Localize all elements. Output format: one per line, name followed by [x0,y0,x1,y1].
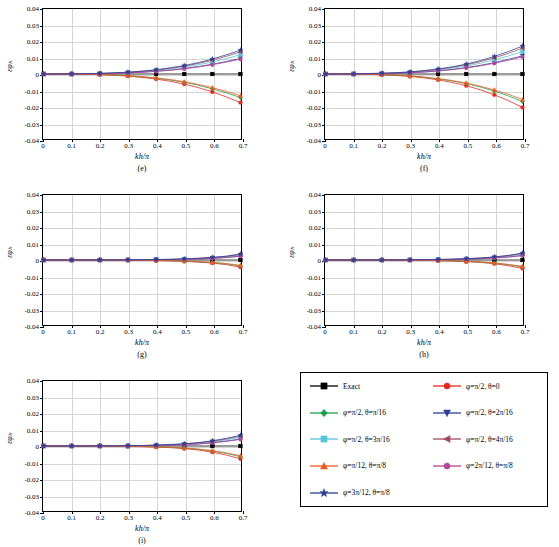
y-tick-label: 0.04 [27,191,39,199]
x-tick-mark [129,139,130,142]
x-tick-label: 0.7 [521,142,530,150]
y-tick-label: -0.02 [24,476,39,484]
legend-label: φ=3π/12, θ=π/8 [343,489,390,497]
x-tick-mark [354,325,355,328]
y-tick-label: 0.04 [27,5,39,13]
plot-area-g: 0.040.030.020.010-0.01-0.02-0.03-0.0400.… [42,194,242,326]
legend-item: φ=π/12, θ=π/8 [301,460,424,472]
series-layer [43,381,241,511]
panel-tag-g: (g) [42,350,242,359]
legend-item: φ=π/2, θ=2π/16 [424,407,547,419]
y-tick-label: -0.02 [24,104,39,112]
plot-area-f: 0.040.030.020.010-0.01-0.02-0.03-0.0400.… [324,8,524,140]
x-tick-mark [214,511,215,514]
x-tick-mark [382,325,383,328]
panel-tag-e: (e) [42,164,242,173]
x-tick-label: 0.5 [181,142,190,150]
x-tick-mark [439,139,440,142]
x-tick-label: 0.4 [153,514,162,522]
plot-area-i: 0.040.030.020.010-0.01-0.02-0.03-0.0400.… [42,380,242,512]
x-tick-label: 0.2 [96,514,105,522]
x-tick-label: 0.3 [124,328,133,336]
x-tick-label: 0 [41,142,45,150]
x-tick-label: 0.3 [124,514,133,522]
y-tick-label: -0.03 [306,307,321,315]
x-tick-label: 0.4 [153,142,162,150]
x-tick-mark [325,325,326,328]
y-tick-label: 0.02 [309,224,321,232]
x-tick-label: 0.7 [239,142,248,150]
x-tick-mark [325,139,326,142]
x-tick-mark [72,325,73,328]
plot-area-e: 0.040.030.020.010-0.01-0.02-0.03-0.0400.… [42,8,242,140]
x-tick-label: 0.1 [67,514,76,522]
legend-marker-circle-icon [432,380,462,392]
y-tick-label: -0.01 [24,88,39,96]
x-tick-mark [496,139,497,142]
legend-item: φ=π/2, θ=3π/16 [301,433,424,445]
x-tick-mark [186,325,187,328]
legend: Exact φ=π/2, θ=0 φ=π/2, θ=π/16 φ=π/2, θ=… [300,372,548,507]
x-tick-mark [411,325,412,328]
x-tick-label: 0.6 [492,142,501,150]
plot-area-h: 0.040.030.020.010-0.01-0.02-0.03-0.0400.… [324,194,524,326]
x-tick-label: 0.1 [349,328,358,336]
x-tick-label: 0 [41,514,45,522]
x-axis-label-e: kh/π [42,152,242,161]
y-tick-label: 0.01 [309,241,321,249]
y-tick-label: 0.03 [27,208,39,216]
x-tick-label: 0 [323,142,327,150]
panel-tag-f: (f) [324,164,524,173]
x-tick-label: 0.6 [210,328,219,336]
x-tick-mark [100,511,101,514]
x-tick-mark [214,139,215,142]
y-tick-label: -0.01 [24,274,39,282]
x-tick-mark [411,139,412,142]
y-tick-label: 0.01 [27,427,39,435]
x-tick-label: 0.4 [435,142,444,150]
y-tick-label: -0.03 [306,121,321,129]
x-tick-label: 0.3 [406,328,415,336]
x-tick-label: 0.2 [378,328,387,336]
y-tick-label: -0.02 [306,290,321,298]
legend-label: φ=π/12, θ=π/8 [343,462,386,470]
y-tick-label: -0.04 [306,323,321,331]
x-tick-mark [72,139,73,142]
y-tick-label: -0.04 [24,509,39,517]
y-tick-label: 0.03 [27,394,39,402]
y-tick-label: -0.01 [306,88,321,96]
legend-item: φ=π/2, θ=0 [424,380,547,392]
x-tick-mark [43,325,44,328]
x-tick-mark [468,325,469,328]
x-tick-mark [129,511,130,514]
figure-panels: εφₕ 0.040.030.020.010-0.01-0.02-0.03-0.0… [0,0,559,547]
legend-items: Exact φ=π/2, θ=0 φ=π/2, θ=π/16 φ=π/2, θ=… [301,373,547,506]
x-tick-label: 0.2 [378,142,387,150]
x-tick-label: 0.7 [239,514,248,522]
x-tick-mark [439,325,440,328]
legend-marker-diamond-icon [309,407,339,419]
y-tick-label: 0 [36,443,40,451]
x-tick-label: 0.1 [67,142,76,150]
y-tick-label: -0.04 [24,323,39,331]
chart-panel-f: εφₕ 0.040.030.020.010-0.01-0.02-0.03-0.0… [282,0,540,178]
x-tick-mark [100,139,101,142]
x-tick-mark [525,325,526,328]
x-tick-label: 0.2 [96,328,105,336]
legend-marker-triangle-down-icon [432,407,462,419]
y-tick-label: 0.04 [309,191,321,199]
legend-label: φ=π/2, θ=3π/16 [343,436,390,444]
y-axis-label-f: εφₕ [287,61,296,72]
y-tick-label: -0.04 [306,137,321,145]
x-tick-label: 0.7 [239,328,248,336]
x-tick-label: 0.1 [349,142,358,150]
x-tick-label: 0 [41,328,45,336]
x-axis-label-h: kh/π [324,338,524,347]
y-tick-label: 0.03 [309,22,321,30]
series-layer [325,195,523,325]
x-axis-label-g: kh/π [42,338,242,347]
legend-marker-square-icon [309,433,339,445]
x-tick-label: 0.7 [521,328,530,336]
x-tick-label: 0.3 [406,142,415,150]
x-tick-mark [243,511,244,514]
